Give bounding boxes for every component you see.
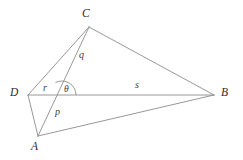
vertex-label-C: C [82,8,90,20]
vertex-label-D: D [10,87,18,99]
edge-DC [28,27,89,95]
vertex-label-A: A [31,141,38,153]
segment-label-p: p [55,107,60,117]
edge-AB [38,95,214,136]
geometry-figure: C D A B q r s p θ [0,0,243,160]
segment-label-s: s [135,80,139,90]
edge-DA [28,95,38,136]
segment-label-r: r [43,83,47,93]
edge-CB [89,27,214,95]
edge-group [28,27,214,136]
segment-label-q: q [79,50,84,60]
vertex-label-B: B [221,87,228,99]
figure-canvas [0,0,243,160]
angle-label-theta: θ [64,85,69,95]
